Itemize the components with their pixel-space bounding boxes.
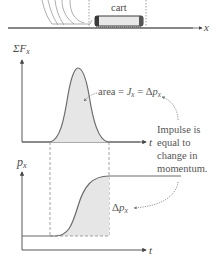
- delta-sub: x: [125, 206, 128, 215]
- momentum-t-label: t: [149, 245, 152, 256]
- momentum-time-graph: [22, 172, 181, 250]
- callout-line-2: equal to: [157, 136, 207, 149]
- callout-pointer-bottom: [134, 182, 178, 208]
- callout-line-4: momentum.: [157, 162, 207, 175]
- delta-p-label: Δpx: [112, 202, 128, 215]
- area-annotation: area = Jx = Δpx: [98, 87, 161, 98]
- cart: [95, 16, 143, 27]
- callout-line-1: Impulse is: [157, 123, 207, 136]
- force-area-shade: [50, 68, 108, 142]
- force-time-graph: [22, 60, 146, 142]
- equals-delta: = Δ: [135, 86, 153, 97]
- p-sub: x: [23, 161, 27, 170]
- x-axis-label: x: [204, 22, 209, 33]
- callout-text: Impulse is equal to change in momentum.: [157, 123, 207, 175]
- callout-line-3: change in: [157, 149, 207, 162]
- force-y-label: ΣFx: [13, 43, 30, 56]
- callout-pointer-top: [162, 97, 178, 120]
- force-t-label: t: [149, 137, 152, 148]
- momentum-y-label: px: [17, 156, 27, 170]
- force-sub: x: [26, 47, 29, 56]
- area-text: area =: [98, 86, 127, 97]
- cart-scene: [8, 0, 202, 29]
- momentum-sub: x: [158, 90, 161, 99]
- cart-label: cart: [111, 3, 127, 14]
- hand-illustration: [42, 0, 92, 25]
- sigma-f: ΣF: [13, 42, 26, 54]
- momentum-area-shade: [55, 176, 109, 236]
